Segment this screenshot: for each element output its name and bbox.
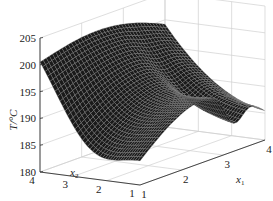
z-tick-labels: 180185190195200205 [20,32,44,178]
x1-tick-label: 1 [141,188,147,200]
surface-patch [259,108,265,110]
x1-tick-labels: 1234 [141,143,272,200]
x2-tick-label: 2 [96,183,102,195]
z-tick-label: 190 [20,112,37,124]
z-tick-mark [40,91,43,92]
x1-tick-label: 2 [183,173,189,185]
z-tick-mark [40,145,43,146]
x2-tick-label: 1 [129,187,135,199]
z-tick-mark [40,64,43,65]
x1-axis-label: x1 [235,173,245,187]
z-tick-mark [40,38,43,39]
x1-tick-label: 3 [225,158,231,170]
z-axis-label: T/°C [7,109,19,131]
x2-tick-label: 3 [63,178,69,190]
z-tick-mark [40,118,43,119]
z-tick-mark [40,172,43,173]
chart-svg: 180185190195200205 1234 1234 T/°C x1 x2 [0,0,273,201]
surface-plot [40,23,265,161]
x2-axis-label: x2 [69,166,79,180]
z-tick-label: 185 [20,139,37,151]
x2-tick-label: 4 [29,174,35,186]
z-tick-label: 200 [20,59,37,71]
surface-chart: 180185190195200205 1234 1234 T/°C x1 x2 [0,0,273,201]
z-tick-label: 195 [20,86,37,98]
x1-tick-label: 4 [266,143,272,155]
z-tick-label: 205 [20,32,37,44]
